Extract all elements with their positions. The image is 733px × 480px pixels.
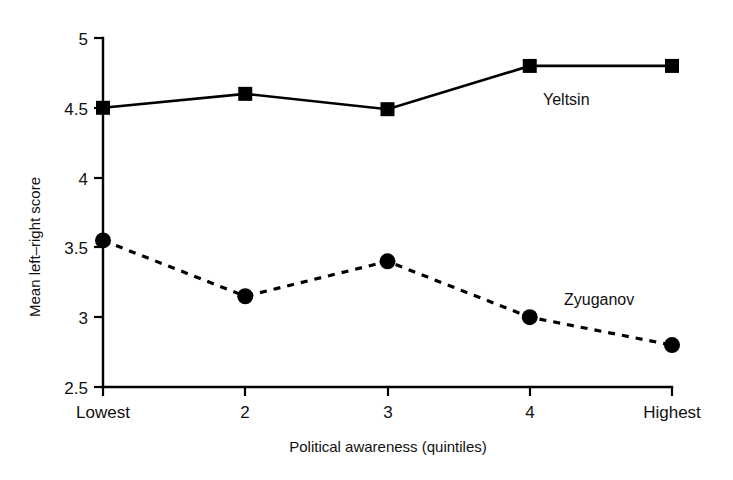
data-point-yeltsin-highest <box>665 59 679 73</box>
data-point-zyuganov-lowest <box>95 232 111 248</box>
y-tick-label-4.5: 4.5 <box>64 100 88 119</box>
x-tick-label-4: 4 <box>525 403 534 422</box>
data-point-yeltsin-3 <box>381 102 395 116</box>
x-tick-label-2: 2 <box>240 403 249 422</box>
data-point-zyuganov-4 <box>522 309 538 325</box>
y-tick-label-4: 4 <box>79 170 88 189</box>
x-axis: Lowest 2 3 4 Highest Political awareness… <box>76 387 701 455</box>
y-axis-title: Mean left–right score <box>26 177 43 317</box>
data-point-zyuganov-3 <box>380 253 396 269</box>
x-tick-label-highest: Highest <box>643 403 701 422</box>
data-point-yeltsin-lowest <box>96 101 110 115</box>
series-yeltsin <box>96 59 679 116</box>
chart-figure: 5 4.5 4 3.5 3 2.5 Mean left–right score … <box>0 0 733 480</box>
data-point-yeltsin-4 <box>523 59 537 73</box>
x-tick-label-3: 3 <box>383 403 392 422</box>
series-label-yeltsin: Yeltsin <box>543 91 590 108</box>
data-point-yeltsin-2 <box>238 87 252 101</box>
y-tick-label-3: 3 <box>79 309 88 328</box>
data-point-zyuganov-highest <box>664 337 680 353</box>
data-point-zyuganov-2 <box>237 288 253 304</box>
x-tick-label-lowest: Lowest <box>76 403 130 422</box>
series-label-zyuganov: Zyuganov <box>564 291 634 308</box>
y-tick-label-5: 5 <box>79 30 88 49</box>
y-tick-label-2.5: 2.5 <box>64 379 88 398</box>
y-axis: 5 4.5 4 3.5 3 2.5 Mean left–right score <box>26 30 103 398</box>
series-markers-yeltsin <box>96 59 679 116</box>
y-tick-label-3.5: 3.5 <box>64 239 88 258</box>
chart-svg: 5 4.5 4 3.5 3 2.5 Mean left–right score … <box>0 0 733 480</box>
x-axis-title: Political awareness (quintiles) <box>289 438 487 455</box>
